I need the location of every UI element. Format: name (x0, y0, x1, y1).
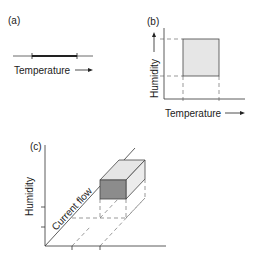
panel-c: (c) Humidity Current flow (24, 141, 166, 250)
panel-a-xlabel: Temperature (14, 65, 71, 76)
niche-rectangle (183, 39, 219, 76)
niche-dimensions-diagram: (a) Temperature (b) Humidity Temperature… (0, 0, 257, 254)
panel-a-label: (a) (8, 15, 20, 26)
arrow-up-icon (152, 32, 156, 37)
panel-b-xlabel: Temperature (165, 108, 222, 119)
current-flow-label: Current flow (49, 185, 94, 232)
panel-b-label: (b) (147, 16, 159, 27)
panel-b-ylabel: Humidity (149, 59, 160, 98)
panel-b: (b) Humidity Temperature (147, 16, 245, 119)
arrow-right-icon (240, 111, 245, 115)
panel-a: (a) Temperature (8, 15, 93, 76)
panel-c-ylabel: Humidity (24, 177, 35, 216)
panel-c-label: (c) (30, 141, 42, 152)
niche-box-front (100, 180, 126, 199)
